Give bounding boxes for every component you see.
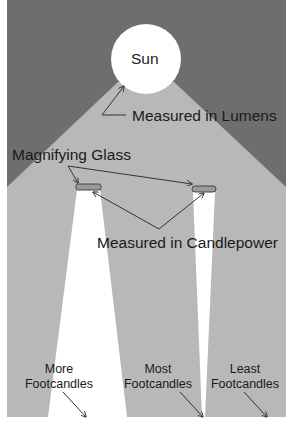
candlepower-label: Measured in Candlepower: [97, 235, 278, 251]
lumens-label: Measured in Lumens: [132, 108, 277, 124]
least-footcandles-label: Least Footcandles: [210, 362, 280, 392]
sun-label: Sun: [131, 51, 159, 67]
magnifying-glass-right: [192, 186, 216, 192]
more-footcandles-label: More Footcandles: [24, 362, 94, 392]
most-footcandles-label: Most Footcandles: [123, 362, 193, 392]
left-white-wedge: [0, 414, 7, 417]
magnifying-glass-label: Magnifying Glass: [12, 147, 131, 163]
magnifying-glass-left: [76, 184, 101, 190]
